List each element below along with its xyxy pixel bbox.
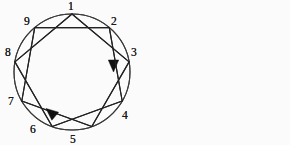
node-label-4: 4 [122,109,128,121]
node-label-5: 5 [70,133,76,145]
right-diagram-svg: 123456789 [0,0,145,145]
node-label-1: 1 [68,0,74,12]
node-label-9: 9 [24,15,30,27]
node-label-8: 8 [5,46,11,58]
figure-root: 123456789 123456789 [0,0,290,145]
node-label-2: 2 [111,15,117,27]
chord-edge-6-to-8 [15,62,52,127]
chord-edge-2-to-4 [109,28,122,101]
node-label-3: 3 [131,46,137,58]
node-label-7: 7 [8,95,14,107]
node-label-6: 6 [30,123,36,135]
chord-edge-7-to-9 [22,28,35,101]
circle-outline [14,14,130,130]
